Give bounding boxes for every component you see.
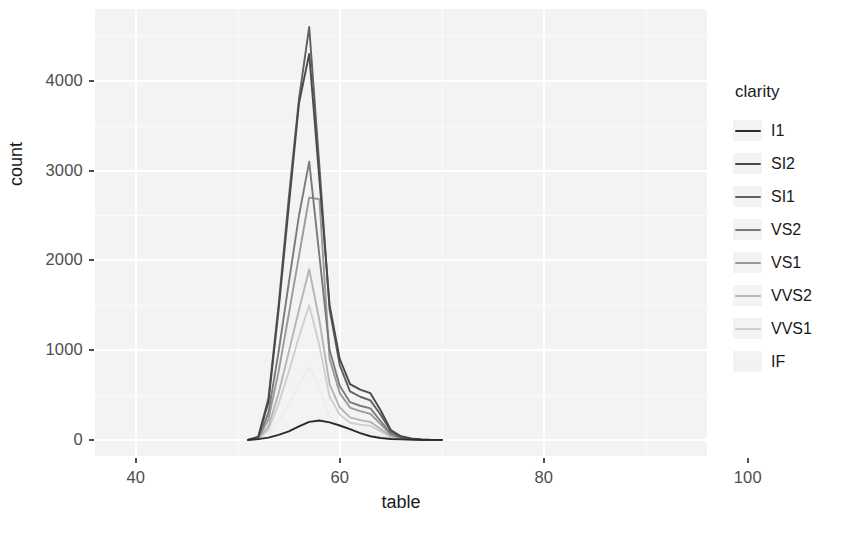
- legend-item-label: VS2: [771, 221, 801, 239]
- legend-item-label: IF: [771, 353, 785, 371]
- legend-key-icon: [733, 351, 762, 372]
- legend-items: I1SI2SI1VS2VS1VVS2VVS1IF: [733, 114, 838, 378]
- y-tick-label: 3000: [23, 161, 83, 180]
- legend: clarity I1SI2SI1VS2VS1VVS2VVS1IF: [733, 82, 838, 378]
- legend-line-swatch: [735, 130, 761, 132]
- legend-item-label: SI1: [771, 188, 795, 206]
- legend-item-vs1[interactable]: VS1: [733, 246, 838, 279]
- legend-item-vs2[interactable]: VS2: [733, 213, 838, 246]
- legend-item-si2[interactable]: SI2: [733, 147, 838, 180]
- legend-item-label: VS1: [771, 254, 801, 272]
- x-axis-label: table: [95, 492, 707, 513]
- legend-line-swatch: [735, 328, 761, 330]
- legend-line-swatch: [735, 295, 761, 297]
- legend-line-swatch: [735, 229, 761, 231]
- y-tick-label: 4000: [23, 71, 83, 90]
- legend-line-swatch: [735, 163, 761, 165]
- legend-key-icon: [733, 120, 762, 141]
- legend-line-swatch: [735, 196, 761, 198]
- legend-key-icon: [733, 186, 762, 207]
- x-tick-mark: [339, 458, 341, 463]
- x-tick-mark: [135, 458, 137, 463]
- legend-key-icon: [733, 285, 762, 306]
- legend-line-swatch: [735, 262, 761, 264]
- y-tick-mark: [89, 80, 94, 82]
- y-tick-mark: [89, 349, 94, 351]
- plot-panel: [95, 9, 707, 456]
- legend-item-label: VVS2: [771, 287, 812, 305]
- x-tick-label: 100: [718, 468, 778, 487]
- y-tick-label: 2000: [23, 250, 83, 269]
- x-tick-label: 60: [310, 468, 370, 487]
- series-lines: [95, 9, 707, 456]
- legend-line-swatch: [735, 361, 761, 363]
- y-axis-label: count: [6, 142, 27, 186]
- legend-item-label: SI2: [771, 155, 795, 173]
- legend-key-icon: [733, 252, 762, 273]
- y-tick-mark: [89, 259, 94, 261]
- legend-item-label: I1: [771, 122, 784, 140]
- x-tick-mark: [747, 458, 749, 463]
- legend-key-icon: [733, 219, 762, 240]
- y-tick-mark: [89, 439, 94, 441]
- y-tick-mark: [89, 170, 94, 172]
- legend-key-icon: [733, 153, 762, 174]
- legend-title: clarity: [735, 82, 838, 102]
- series-line-vvs2: [248, 269, 442, 440]
- x-tick-label: 80: [514, 468, 574, 487]
- legend-item-si1[interactable]: SI1: [733, 180, 838, 213]
- legend-item-if[interactable]: IF: [733, 345, 838, 378]
- y-tick-label: 0: [23, 430, 83, 449]
- legend-item-vvs1[interactable]: VVS1: [733, 312, 838, 345]
- x-tick-label: 40: [106, 468, 166, 487]
- legend-item-label: VVS1: [771, 320, 812, 338]
- y-tick-label: 1000: [23, 340, 83, 359]
- x-tick-mark: [543, 458, 545, 463]
- legend-item-i1[interactable]: I1: [733, 114, 838, 147]
- legend-item-vvs2[interactable]: VVS2: [733, 279, 838, 312]
- chart-figure: 01000200030004000 406080100 count table …: [0, 0, 844, 534]
- legend-key-icon: [733, 318, 762, 339]
